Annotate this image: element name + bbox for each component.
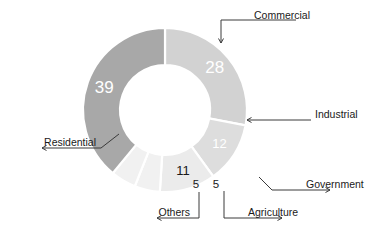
label-industrial: Industrial <box>315 108 358 120</box>
value-government: 11 <box>176 163 190 178</box>
value-commercial: 28 <box>205 58 224 77</box>
donut-slices <box>83 28 247 192</box>
label-government: Government <box>306 178 364 190</box>
donut-slice-residential[interactable] <box>83 28 165 173</box>
donut-chart: 28121139 Commercial Industrial Governmen… <box>0 0 377 236</box>
label-residential: Residential <box>44 136 96 148</box>
leader-line-commercial <box>221 20 296 43</box>
label-others: Others <box>158 206 190 218</box>
value-others: 5 <box>193 178 199 190</box>
label-commercial: Commercial <box>254 9 310 21</box>
value-residential: 39 <box>95 78 114 97</box>
value-industrial: 12 <box>212 136 226 151</box>
value-agriculture: 5 <box>213 178 219 190</box>
donut-chart-svg: 28121139 Commercial Industrial Governmen… <box>0 0 377 236</box>
label-agriculture: Agriculture <box>248 206 298 218</box>
